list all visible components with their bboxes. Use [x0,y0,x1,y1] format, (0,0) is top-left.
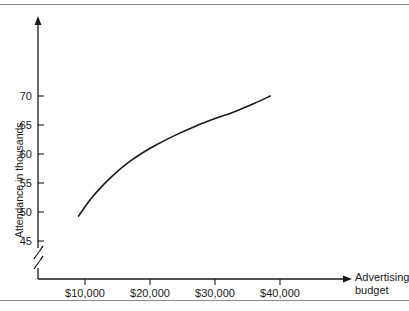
chart-plot-area [0,0,409,311]
y-axis-arrowhead [35,16,42,25]
data-series-curve [79,96,271,216]
x-axis-arrowhead [343,276,352,283]
y-axis-title: Attendance in thousands [14,122,25,238]
x-tick-label-30000: $30,000 [185,288,245,299]
y-axis-break-icon [34,246,43,269]
x-tick-label-10000: $10,000 [55,288,115,299]
y-tick-label-70: 70 [10,91,32,102]
x-tick-label-40000: $40,000 [250,288,310,299]
x-axis-title: Advertising budget [355,271,409,297]
x-tick-label-20000: $20,000 [120,288,180,299]
x-axis-title-line2: budget [355,284,409,297]
x-axis-title-line1: Advertising [355,271,409,284]
x-axis-ticks [85,279,280,285]
y-axis-ticks [38,96,44,241]
chart-page: 70 65 60 55 50 45 $10,000 $20,000 $30,00… [0,0,409,311]
